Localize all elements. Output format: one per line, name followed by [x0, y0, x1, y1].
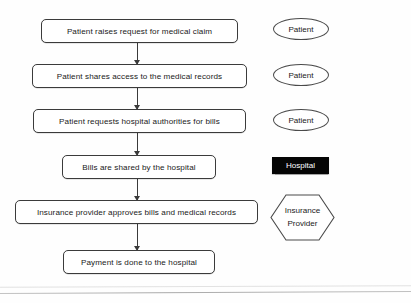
- role-marker-patient-2[interactable]: Patient: [273, 64, 329, 86]
- process-box-insurance-approves[interactable]: Insurance provider approves bills and me…: [15, 200, 258, 224]
- scan-artifact-line-2: [0, 285, 411, 287]
- role-marker-hospital[interactable]: Hospital: [272, 157, 329, 174]
- process-box-label: Bills are shared by the hospital: [82, 163, 195, 172]
- connector-step5-step6: [137, 224, 138, 250]
- connector-step1-step2: [137, 43, 138, 64]
- role-marker-label: Patient: [288, 116, 313, 125]
- process-box-patient-requests-bills[interactable]: Patient requests hospital authorities fo…: [33, 109, 246, 133]
- flowchart-canvas: Patient raises request for medical claim…: [0, 0, 411, 303]
- role-marker-label: Hospital: [286, 161, 315, 170]
- process-box-patient-raises-request[interactable]: Patient raises request for medical claim: [41, 19, 238, 43]
- scan-artifact-line-1: [0, 291, 411, 294]
- process-box-bills-shared-by-hospital[interactable]: Bills are shared by the hospital: [62, 155, 216, 179]
- role-marker-insurance-provider[interactable]: Insurance Provider: [270, 194, 335, 241]
- role-marker-patient-1[interactable]: Patient: [273, 18, 329, 40]
- process-box-label: Insurance provider approves bills and me…: [37, 208, 236, 217]
- role-marker-patient-3[interactable]: Patient: [273, 109, 329, 131]
- role-marker-label-line1: Insurance: [285, 205, 321, 218]
- role-marker-label: Patient: [288, 25, 313, 34]
- connector-step4-step5: [137, 179, 138, 200]
- process-box-label: Patient shares access to the medical rec…: [57, 72, 222, 81]
- process-box-label: Payment is done to the hospital: [81, 258, 197, 267]
- process-box-label: Patient raises request for medical claim: [67, 27, 212, 36]
- process-box-patient-shares-access[interactable]: Patient shares access to the medical rec…: [32, 64, 247, 88]
- connector-step2-step3: [137, 88, 138, 109]
- connector-step3-step4: [137, 133, 138, 155]
- role-marker-label: Patient: [288, 71, 313, 80]
- process-box-payment-done[interactable]: Payment is done to the hospital: [63, 250, 215, 274]
- process-box-label: Patient requests hospital authorities fo…: [59, 117, 220, 126]
- role-marker-label-line2: Provider: [287, 218, 317, 231]
